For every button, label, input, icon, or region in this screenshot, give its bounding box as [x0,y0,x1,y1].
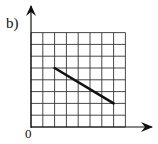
line-segment [55,68,114,103]
coordinate-grid [0,0,158,144]
grid-lines [31,33,125,127]
